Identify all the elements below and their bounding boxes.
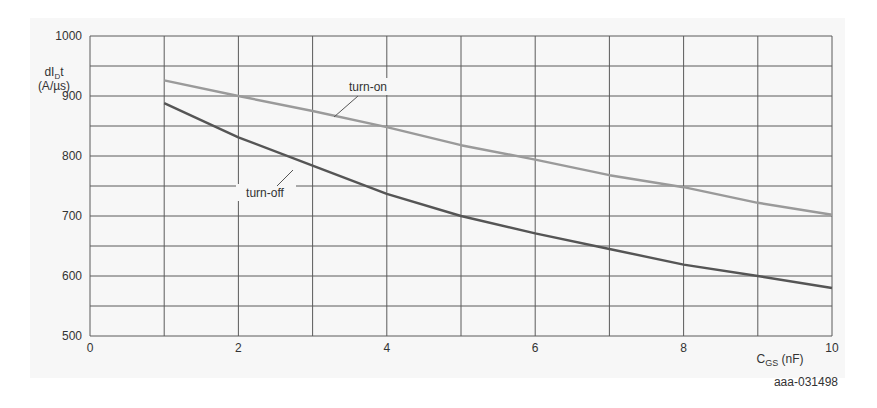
grid <box>90 36 832 336</box>
y-tick-label: 600 <box>62 269 82 283</box>
y-tick-label: 500 <box>62 329 82 343</box>
svg-text:turn-off: turn-off <box>246 186 284 200</box>
y-axis-unit: (A/µs) <box>38 79 70 93</box>
x-tick-label: 10 <box>825 341 839 355</box>
y-tick-label: 700 <box>62 209 82 223</box>
figure-id: aaa-031498 <box>774 375 838 389</box>
y-tick-label: 1000 <box>55 29 82 43</box>
y-tick-label: 800 <box>62 149 82 163</box>
x-tick-label: 8 <box>680 341 687 355</box>
x-tick-label: 2 <box>235 341 242 355</box>
x-tick-label: 0 <box>87 341 94 355</box>
x-axis-ticks: 0246810 <box>87 341 839 355</box>
line-chart: 5006007008009001000 0246810 dIDt (A/µs) … <box>0 0 877 408</box>
x-axis-label: CGS (nF) <box>756 352 803 368</box>
svg-text:turn-on: turn-on <box>349 80 387 94</box>
x-tick-label: 6 <box>532 341 539 355</box>
x-tick-label: 4 <box>383 341 390 355</box>
